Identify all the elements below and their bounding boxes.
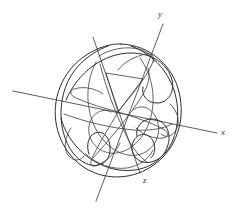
curve-chord-lower-left — [91, 112, 120, 166]
figure-canvas: y x z — [0, 0, 239, 212]
curve-band-upper — [66, 53, 173, 103]
x-axis-label: x — [221, 128, 225, 137]
z-axis-label: z — [143, 176, 147, 185]
axis-lines — [13, 24, 217, 201]
curve-tail-right — [161, 104, 178, 136]
x-axis-line — [13, 91, 217, 133]
curve-inner-loop-b — [89, 58, 153, 153]
figure-drawing — [0, 0, 239, 212]
y-axis-label: y — [158, 10, 162, 19]
